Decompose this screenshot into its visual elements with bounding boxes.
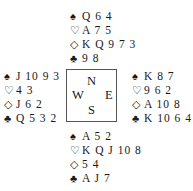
west-hearts: ♡4 3 (4, 83, 60, 97)
north-clubs: ♣9 8 (70, 51, 136, 65)
south-hand: ♠A 5 2 ♡K Q J 10 8 ◇5 4 ♣A J 7 (70, 129, 142, 185)
south-diamonds: ◇5 4 (70, 157, 142, 171)
heart-icon: ♡ (70, 143, 82, 157)
club-icon: ♣ (132, 111, 144, 125)
club-icon: ♣ (70, 51, 82, 65)
diamond-icon: ◇ (70, 37, 82, 51)
heart-icon: ♡ (70, 23, 82, 37)
south-spades: ♠A 5 2 (70, 129, 142, 143)
north-diamonds: ◇K Q 9 7 3 (70, 37, 136, 51)
north-hearts: ♡A 7 5 (70, 23, 136, 37)
west-clubs: ♣Q 5 3 2 (4, 111, 60, 125)
compass-east: E (105, 88, 113, 103)
diamond-icon: ◇ (132, 97, 144, 111)
west-hand: ♠J 10 9 3 ♡4 3 ◇J 6 2 ♣Q 5 3 2 (4, 69, 60, 125)
south-clubs: ♣A J 7 (70, 171, 142, 185)
east-clubs: ♣K 10 6 4 (132, 111, 192, 125)
east-diamonds: ◇A 10 8 (132, 97, 192, 111)
heart-icon: ♡ (132, 83, 144, 97)
west-spades: ♠J 10 9 3 (4, 69, 60, 83)
diamond-icon: ◇ (70, 157, 82, 171)
east-spades: ♠K 8 7 (132, 69, 192, 83)
east-hand: ♠K 8 7 ♡9 6 2 ◇A 10 8 ♣K 10 6 4 (132, 69, 192, 125)
east-hearts: ♡9 6 2 (132, 83, 192, 97)
spade-icon: ♠ (70, 129, 82, 143)
north-spades: ♠Q 6 4 (70, 9, 136, 23)
club-icon: ♣ (70, 171, 82, 185)
west-diamonds: ◇J 6 2 (4, 97, 60, 111)
club-icon: ♣ (4, 111, 16, 125)
north-hand: ♠Q 6 4 ♡A 7 5 ◇K Q 9 7 3 ♣9 8 (70, 9, 136, 65)
compass-north: N (87, 74, 96, 89)
compass-south: S (88, 103, 95, 118)
diamond-icon: ◇ (4, 97, 16, 111)
compass-west: W (72, 88, 84, 103)
spade-icon: ♠ (70, 9, 82, 23)
spade-icon: ♠ (4, 69, 16, 83)
spade-icon: ♠ (132, 69, 144, 83)
compass-box: N W E S (66, 69, 117, 122)
heart-icon: ♡ (4, 83, 16, 97)
south-hearts: ♡K Q J 10 8 (70, 143, 142, 157)
